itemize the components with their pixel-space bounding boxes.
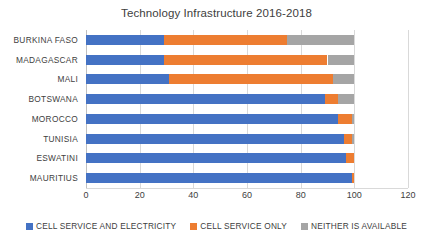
bar-segment[interactable] [86,153,346,163]
bar-segment[interactable] [86,55,164,65]
y-axis-label: MOROCCO [32,114,78,124]
bar-row[interactable] [86,173,408,183]
y-axis-label: BOTSWANA [28,94,78,104]
bar-segment[interactable] [344,134,352,144]
bar-segment[interactable] [86,173,352,183]
legend-label: NEITHER IS AVAILABLE [311,221,407,231]
bar-segment[interactable] [86,74,169,84]
bar-segment[interactable] [325,94,338,104]
gridline-120 [408,30,409,188]
bar-segment[interactable] [352,114,355,124]
x-axis-tick-labels: 020406080100120 [0,190,433,206]
legend-label: CELL SERVICE AND ELECTRICITY [36,221,176,231]
bar-segment[interactable] [328,55,355,65]
bar-segment[interactable] [86,134,344,144]
bar-row[interactable] [86,114,408,124]
bar-segment[interactable] [352,134,355,144]
chart-legend: CELL SERVICE AND ELECTRICITYCELL SERVICE… [0,221,433,231]
legend-swatch-icon [190,223,197,230]
x-axis-tick-label: 80 [296,190,306,200]
bar-segment[interactable] [338,94,354,104]
x-axis-tick-label: 120 [400,190,415,200]
bar-row[interactable] [86,134,408,144]
legend-swatch-icon [26,223,33,230]
legend-swatch-icon [301,223,308,230]
bar-segment[interactable] [287,35,354,45]
bar-row[interactable] [86,74,408,84]
bar-segment[interactable] [164,55,328,65]
y-axis-label: TUNISIA [43,134,78,144]
y-axis-label: MALI [57,74,78,84]
bar-row[interactable] [86,35,408,45]
y-axis-category-labels: BURKINA FASOMADAGASCARMALIBOTSWANAMOROCC… [0,30,82,188]
x-axis-tick-label: 40 [188,190,198,200]
bar-segment[interactable] [333,74,354,84]
chart-container: Technology Infrastructure 2016-2018 BURK… [0,0,433,247]
legend-item[interactable]: NEITHER IS AVAILABLE [301,221,407,231]
bar-segment[interactable] [86,35,164,45]
legend-item[interactable]: CELL SERVICE ONLY [190,221,287,231]
bar-segment[interactable] [338,114,351,124]
bar-segment[interactable] [346,153,354,163]
y-axis-label: MAURITIUS [30,173,78,183]
x-axis-line [86,188,408,189]
legend-item[interactable]: CELL SERVICE AND ELECTRICITY [26,221,176,231]
x-axis-tick-label: 100 [347,190,362,200]
bar-row[interactable] [86,94,408,104]
bar-segment[interactable] [164,35,287,45]
plot-area [86,30,408,188]
x-axis-tick-label: 20 [135,190,145,200]
legend-label: CELL SERVICE ONLY [200,221,287,231]
chart-title: Technology Infrastructure 2016-2018 [0,7,433,19]
bar-row[interactable] [86,153,408,163]
x-axis-tick-label: 0 [83,190,88,200]
y-axis-label: MADAGASCAR [16,55,78,65]
y-axis-label: ESWATINI [36,153,78,163]
bar-segment[interactable] [352,173,355,183]
bar-segment[interactable] [86,94,325,104]
x-axis-tick-label: 60 [242,190,252,200]
y-axis-label: BURKINA FASO [14,35,78,45]
bar-segment[interactable] [169,74,333,84]
bar-row[interactable] [86,55,408,65]
bar-segment[interactable] [86,114,338,124]
